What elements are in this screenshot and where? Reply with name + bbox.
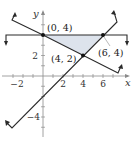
arrow-upper-right-icon	[111, 10, 116, 15]
y-axis	[41, 10, 45, 137]
y-axis-label: y	[32, 8, 39, 19]
tick-x-neg2: −2	[10, 79, 23, 89]
label-point-0-4: (0, 4)	[47, 22, 73, 33]
arrow-right-icon	[125, 41, 129, 46]
label-point-6-4: (6, 4)	[98, 47, 124, 58]
x-axis	[2, 74, 130, 78]
label-point-4-2: (4, 2)	[51, 53, 77, 64]
tick-x-6: 6	[100, 79, 106, 89]
arrow-lower-right-icon	[118, 64, 123, 69]
tick-y-2: 2	[32, 51, 38, 61]
point-0-4	[41, 33, 45, 37]
x-axis-label: x	[125, 77, 131, 88]
tick-y-neg4: −4	[27, 112, 41, 122]
point-6-4	[101, 33, 105, 37]
arrow-left-icon	[4, 41, 8, 46]
tick-x-2: 2	[60, 79, 66, 89]
arrow-upper-left-icon	[13, 12, 18, 17]
graph: (0, 4) (6, 4) (4, 2) −2 2 4 6 2 −4 x y	[0, 0, 136, 147]
point-4-2	[81, 54, 85, 58]
tick-x-4: 4	[80, 79, 86, 89]
